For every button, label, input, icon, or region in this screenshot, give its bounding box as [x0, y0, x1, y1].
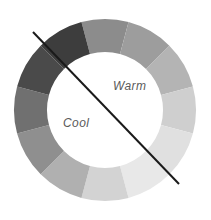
warm-region-label: Warm	[113, 79, 146, 93]
color-wheel-figure: Warm Cool	[0, 0, 211, 220]
cool-region-label: Cool	[63, 116, 89, 130]
color-wheel-svg	[0, 0, 211, 220]
